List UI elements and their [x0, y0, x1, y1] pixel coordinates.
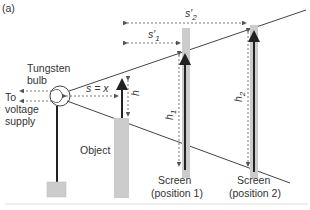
bulb-icon — [47, 86, 70, 197]
svg-text:h1: h1 — [163, 110, 178, 120]
panel-label: (a) — [2, 2, 15, 14]
screen1-label-line2: (position 1) — [151, 187, 203, 199]
object-label: Object — [80, 144, 110, 156]
screen2-label-line1: Screen — [237, 174, 270, 186]
height-h2-label: h2 — [232, 91, 247, 102]
supply-label-line3: supply — [5, 115, 36, 127]
distance-s-label: s = x — [86, 82, 109, 94]
distance-s1-label: s′1 — [148, 28, 160, 43]
screen1-label-line1: Screen — [158, 174, 191, 186]
svg-text:h2: h2 — [232, 91, 247, 102]
supply-label-line2: voltage — [5, 103, 39, 115]
height-h1-label: h1 — [163, 110, 178, 120]
screen2-label-line2: (position 2) — [229, 187, 281, 199]
svg-text:s′1: s′1 — [148, 28, 160, 43]
bulb-label-line1: Tungsten — [27, 62, 71, 74]
bulb-label-line2: bulb — [27, 74, 47, 86]
distance-s2-label: s′2 — [185, 7, 197, 22]
height-h-label: h — [129, 90, 141, 96]
supply-label-line1: To — [5, 91, 16, 103]
svg-text:s′2: s′2 — [185, 7, 197, 22]
object-bar — [114, 118, 129, 198]
shadow-projection-diagram: (a) Tungsten bulb To voltage supply s = … — [0, 0, 310, 210]
